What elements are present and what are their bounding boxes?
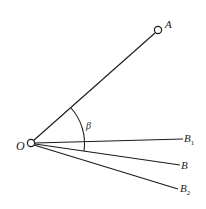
ray-OB2 xyxy=(34,145,178,189)
point-A-marker xyxy=(154,26,161,33)
angle-arc-beta xyxy=(71,108,85,151)
ray-OB xyxy=(35,144,180,165)
label-O: O xyxy=(16,139,25,153)
label-B1: B1 xyxy=(184,132,195,147)
label-A: A xyxy=(164,18,172,30)
ray-OA xyxy=(33,33,155,141)
label-B: B xyxy=(181,159,188,171)
label-beta: β xyxy=(85,120,91,131)
ray-OB1 xyxy=(35,139,183,143)
point-O-marker xyxy=(27,139,34,146)
angle-diagram: O A β B1 B B2 xyxy=(0,0,206,209)
label-B2-subscript: 2 xyxy=(187,189,191,197)
label-B2: B2 xyxy=(180,182,191,197)
label-B1-subscript: 1 xyxy=(191,139,195,147)
